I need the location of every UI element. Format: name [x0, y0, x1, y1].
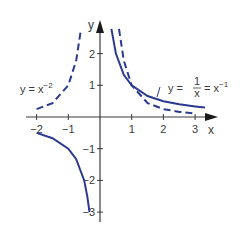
annotation-inverse-square: y = x−2 — [20, 81, 53, 95]
annotation-exponent: −1 — [219, 80, 229, 89]
annotation-exponent: −2 — [44, 81, 54, 90]
inverse-square-curve-right — [119, 29, 195, 114]
x-tick-label: 3 — [192, 123, 198, 135]
annotation-y-eq: y = — [168, 82, 183, 94]
y-axis-arrow-icon — [96, 20, 104, 33]
annotation-eq-x: = x — [204, 82, 219, 94]
y-axis-label: y — [88, 18, 94, 32]
y-tick-label: 1 — [89, 79, 95, 91]
y-tick-label: 2 — [89, 48, 95, 60]
annotation-denominator: x — [194, 87, 200, 99]
x-axis-label: x — [208, 123, 214, 137]
annotation-reciprocal: y = 1 x = x−1 — [157, 75, 229, 99]
annotation-leader-line — [157, 87, 160, 97]
function-graph: −2 −1 1 2 3 x 2 1 −1 −2 −3 y y = x−2 y =… — [0, 0, 252, 227]
svg-text:= x−1: = x−1 — [204, 80, 229, 94]
x-tick-label: 2 — [160, 123, 166, 135]
annotation-base: y = x — [20, 83, 44, 95]
inverse-square-curve-left — [37, 29, 81, 109]
x-tick-label: 1 — [129, 123, 135, 135]
x-axis-arrow-icon — [205, 113, 218, 121]
x-tick-label: −1 — [62, 123, 75, 135]
svg-text:y = x−2: y = x−2 — [20, 81, 53, 95]
annotation-numerator: 1 — [194, 75, 200, 87]
y-tick-label: −1 — [82, 143, 95, 155]
